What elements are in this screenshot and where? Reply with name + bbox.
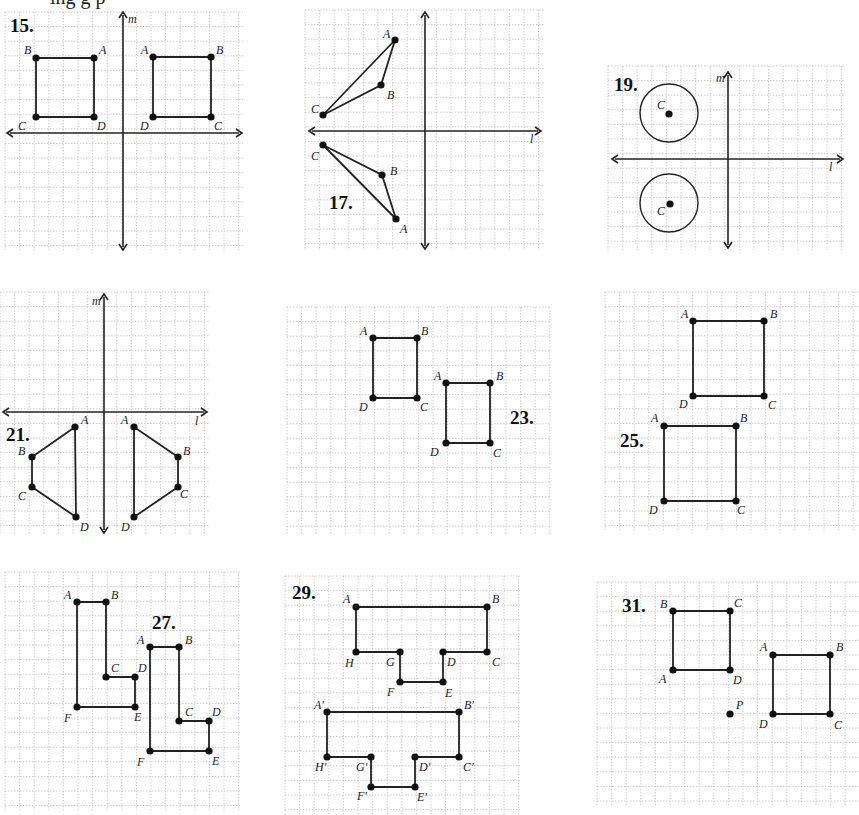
vertex-point bbox=[769, 651, 776, 658]
vertex-label: C bbox=[493, 446, 502, 460]
vertex-point bbox=[72, 513, 79, 520]
vertex-point bbox=[669, 666, 676, 673]
vertex-point bbox=[392, 215, 399, 222]
vertex-point bbox=[665, 110, 672, 117]
vertex-label: D bbox=[648, 503, 658, 517]
exercise-number: 21. bbox=[6, 424, 30, 445]
vertex-label: B bbox=[387, 88, 395, 102]
vertex-label: B bbox=[660, 597, 668, 611]
polygon-figure bbox=[373, 338, 417, 398]
vertex-point bbox=[769, 710, 776, 717]
vertex-label: E bbox=[211, 754, 220, 768]
vertex-label: A bbox=[382, 27, 391, 41]
vertex-label: C bbox=[311, 102, 320, 116]
polygon-figure bbox=[134, 427, 178, 517]
vertex-point bbox=[32, 54, 39, 61]
vertex-label: A bbox=[140, 43, 149, 57]
vertex-label: B bbox=[496, 369, 504, 383]
polygon-figure bbox=[153, 57, 211, 117]
vertex-label: C bbox=[18, 119, 27, 133]
vertex-point bbox=[396, 678, 403, 685]
axis-label-l: l bbox=[195, 414, 199, 428]
vertex-point bbox=[455, 753, 462, 760]
exercise-number: 17. bbox=[329, 192, 353, 213]
figure-panel-19: mlCC19. bbox=[608, 66, 845, 250]
vertex-label: C bbox=[185, 705, 194, 719]
vertex-point bbox=[391, 36, 398, 43]
vertex-label: A' bbox=[313, 698, 324, 712]
vertex-label: F bbox=[63, 711, 72, 725]
vertex-label: C bbox=[657, 204, 666, 218]
vertex-point bbox=[90, 54, 97, 61]
vertex-label: F bbox=[386, 685, 395, 699]
polygon-figure bbox=[36, 58, 94, 117]
vertex-label: B bbox=[24, 43, 32, 57]
vertex-label: A bbox=[359, 324, 368, 338]
vertex-point bbox=[319, 141, 326, 148]
vertex-point bbox=[483, 603, 490, 610]
vertex-label: B bbox=[421, 324, 429, 338]
vertex-point bbox=[323, 708, 330, 715]
vertex-label: B bbox=[390, 164, 398, 178]
vertex-label: B bbox=[770, 307, 778, 321]
figure-panel-15: mBADCABCD15. bbox=[5, 12, 243, 250]
vertex-point bbox=[73, 598, 80, 605]
vertex-label: D bbox=[732, 673, 742, 687]
vertex-label: A bbox=[80, 413, 89, 427]
vertex-label: A bbox=[342, 592, 351, 606]
vertex-point bbox=[367, 753, 374, 760]
vertex-point bbox=[486, 379, 493, 386]
vertex-point bbox=[411, 753, 418, 760]
vertex-point bbox=[102, 673, 109, 680]
vertex-label: B' bbox=[464, 698, 474, 712]
polygon-figure bbox=[664, 426, 736, 501]
vertex-label: C' bbox=[463, 760, 474, 774]
figure-panel-29: ABCDEFGHA'B'C'D'E'F'G'H'29. bbox=[285, 576, 520, 815]
vertex-point bbox=[413, 334, 420, 341]
vertex-label: A bbox=[98, 43, 107, 57]
vertex-point bbox=[455, 708, 462, 715]
vertex-point bbox=[396, 648, 403, 655]
exercise-number: 19. bbox=[614, 74, 638, 95]
exercise-number: 27. bbox=[152, 612, 176, 633]
vertex-point bbox=[732, 422, 739, 429]
exercise-number: 29. bbox=[292, 582, 316, 603]
exercise-number: 31. bbox=[622, 595, 646, 616]
vertex-point bbox=[726, 710, 733, 717]
axis-label-m: m bbox=[128, 12, 137, 26]
vertex-point bbox=[102, 598, 109, 605]
vertex-point bbox=[367, 783, 374, 790]
axis-label-m: m bbox=[92, 294, 101, 308]
vertex-point bbox=[352, 648, 359, 655]
vertex-label: D bbox=[678, 397, 688, 411]
vertex-point bbox=[689, 392, 696, 399]
vertex-point bbox=[32, 113, 39, 120]
vertex-label: D bbox=[358, 400, 368, 414]
vertex-label: E bbox=[133, 710, 142, 724]
vertex-point bbox=[73, 703, 80, 710]
vertex-point bbox=[149, 113, 156, 120]
vertex-label: B bbox=[492, 592, 500, 606]
polygon-figure bbox=[327, 712, 459, 787]
exercise-number: 15. bbox=[10, 15, 34, 36]
vertex-point bbox=[378, 171, 385, 178]
polygon-figure bbox=[77, 602, 135, 707]
vertex-label: C bbox=[657, 98, 666, 112]
vertex-label: D bbox=[137, 661, 147, 675]
vertex-point bbox=[442, 439, 449, 446]
axis-label-l: l bbox=[530, 132, 534, 146]
vertex-point bbox=[439, 648, 446, 655]
vertex-point bbox=[826, 710, 833, 717]
vertex-label: H bbox=[344, 656, 355, 670]
vertex-label: A bbox=[650, 411, 659, 425]
polygon-figure bbox=[150, 647, 209, 751]
grid-paper bbox=[5, 572, 240, 810]
exercise-figures-canvas: mBADCABCD15.lABCCBA17.mlCC19.mlABCDABCD2… bbox=[0, 0, 859, 815]
axis-label-l: l bbox=[829, 160, 833, 174]
vertex-label: C bbox=[834, 718, 843, 732]
vertex-point bbox=[760, 317, 767, 324]
vertex-point bbox=[175, 643, 182, 650]
vertex-label: B bbox=[740, 411, 748, 425]
vertex-label: F' bbox=[356, 789, 367, 803]
vertex-label: D bbox=[120, 520, 130, 534]
